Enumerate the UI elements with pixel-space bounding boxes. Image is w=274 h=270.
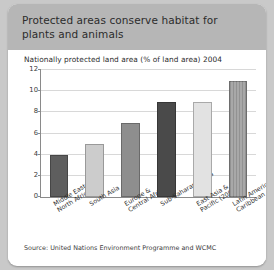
chart-header: Protected areas conserve habitat for pla… (8, 4, 266, 50)
y-axis-tick-label: 12 (29, 65, 38, 73)
chart-body: Nationally protected land area (% of lan… (8, 50, 266, 260)
y-axis-tick-mark (38, 154, 41, 155)
y-axis-tick-mark (38, 111, 41, 112)
bar (193, 102, 212, 197)
gridline: 8 (41, 111, 256, 112)
bar (121, 123, 140, 197)
y-axis-tick-mark (38, 90, 41, 91)
source-note: Source: United Nations Environment Progr… (24, 244, 216, 252)
bar (229, 81, 248, 197)
chart-subtitle: Nationally protected land area (% of lan… (24, 55, 222, 64)
y-axis-tick-mark (38, 69, 41, 70)
bar (85, 144, 104, 197)
chart-figure: Protected areas conserve habitat for pla… (8, 4, 266, 266)
y-axis-tick-mark (38, 196, 41, 197)
y-axis-tick-mark (38, 133, 41, 134)
gridline: 4 (41, 154, 256, 155)
gridline: 12 (41, 69, 256, 70)
bar (157, 102, 176, 197)
page-title: Protected areas conserve habitat for pla… (22, 14, 252, 41)
gridline: 6 (41, 133, 256, 134)
plot-area: 024681012 Middle East &North AfricaSouth… (40, 70, 256, 198)
gridline: 2 (41, 175, 256, 176)
bar (50, 155, 69, 197)
y-axis-tick-mark (38, 175, 41, 176)
gridline: 10 (41, 90, 256, 91)
plot-wrapper: 024681012 Middle East &North AfricaSouth… (20, 70, 256, 198)
y-axis-tick-label: 10 (29, 86, 38, 94)
